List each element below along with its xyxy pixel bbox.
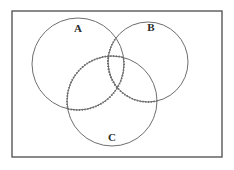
- venn-diagram-canvas: A B C: [0, 0, 234, 170]
- set-label-a: A: [74, 22, 82, 34]
- set-label-c: C: [108, 131, 116, 143]
- venn-diagram-svg: A B C: [0, 0, 234, 170]
- set-label-b: B: [147, 21, 155, 33]
